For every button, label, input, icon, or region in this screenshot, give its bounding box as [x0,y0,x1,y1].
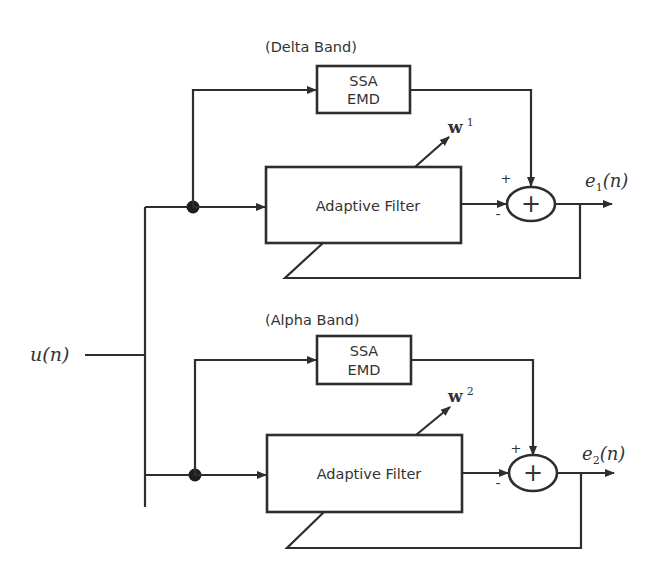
branch-alpha: (Alpha Band) SSA EMD Adaptive Filter w2 … [145,312,625,548]
emd-label-1: EMD [347,91,380,107]
band-label-alpha: (Alpha Band) [265,312,359,328]
summer-glyph-2: + [523,459,543,487]
ssa-label-2: SSA [350,343,379,359]
adaptive-filter-block-diagram: u(n) (Delta Band) SSA EMD Adaptive Filte… [0,0,660,583]
plus-sign-1: + [501,171,512,186]
summer-glyph-1: + [521,190,541,218]
branch-delta: (Delta Band) SSA EMD Adaptive Filter w1 … [145,39,628,278]
output-label-1: e1(n) [585,170,628,194]
adaptive-filter-label-1: Adaptive Filter [316,198,421,214]
input-label: u(n) [30,343,69,365]
ssa-label-1: SSA [349,73,378,89]
minus-sign-1: - [495,206,500,222]
weight-arrow-1 [415,137,449,167]
weight-arrow-2 [416,407,450,435]
minus-sign-2: - [495,475,500,491]
output-label-2: e2(n) [582,443,625,467]
adaptive-filter-label-2: Adaptive Filter [317,466,422,482]
band-label-delta: (Delta Band) [265,39,357,55]
plus-sign-2: + [511,441,522,456]
weight-label-2: w2 [447,385,474,406]
weight-label-1: w1 [447,116,474,137]
emd-label-2: EMD [348,362,381,378]
